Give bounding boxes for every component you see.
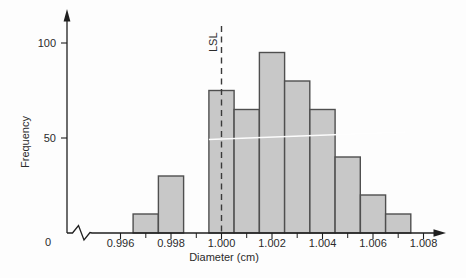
histogram-bar xyxy=(360,195,385,233)
histogram-bar xyxy=(234,110,259,234)
x-tick-label: 1.004 xyxy=(309,237,337,249)
histogram-chart: 0.9960.9981.0001.0021.0041.0061.00850100… xyxy=(0,0,466,278)
x-axis-title: Diameter (cm) xyxy=(189,251,259,263)
histogram-bar xyxy=(386,214,411,233)
x-tick-label: 1.002 xyxy=(258,237,286,249)
histogram-bar xyxy=(259,53,284,234)
y-tick-label: 50 xyxy=(44,132,56,144)
histogram-bar xyxy=(335,157,360,233)
x-tick-label: 1.006 xyxy=(359,237,387,249)
y-tick-label: 100 xyxy=(38,37,56,49)
x-tick-label: 1.000 xyxy=(208,237,236,249)
y-axis-arrow xyxy=(64,9,71,22)
lsl-label: LSL xyxy=(207,32,219,52)
histogram-bar xyxy=(310,110,335,234)
x-axis-arrow xyxy=(434,229,447,236)
x-tick-label: 0.996 xyxy=(107,237,135,249)
histogram-bar xyxy=(158,176,183,233)
y-axis-title: Frequency xyxy=(19,116,31,168)
origin-label: 0 xyxy=(45,236,51,248)
x-tick-label: 0.998 xyxy=(157,237,185,249)
histogram-bar xyxy=(285,81,310,233)
x-tick-label: 1.008 xyxy=(410,237,438,249)
histogram-figure: 0.9960.9981.0001.0021.0041.0061.00850100… xyxy=(0,0,466,278)
histogram-bar xyxy=(133,214,158,233)
